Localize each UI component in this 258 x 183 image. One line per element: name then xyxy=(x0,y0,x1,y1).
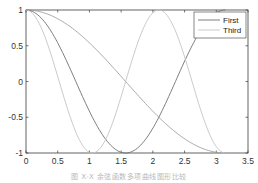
y-tick-label: 0.5 xyxy=(11,41,23,51)
x-tick-label: 3.5 xyxy=(242,156,254,166)
legend-label: First xyxy=(223,16,239,25)
figure-caption: 图 X-X 余弦函数多项曲线图形比较 xyxy=(0,171,258,181)
x-tick-label: 1.5 xyxy=(115,156,127,166)
x-tick-label: 0 xyxy=(24,156,29,166)
x-tick-label: 2 xyxy=(150,156,155,166)
x-tick-label: 2.5 xyxy=(179,156,191,166)
x-tick-label: 3 xyxy=(214,156,219,166)
y-tick-label: -0.5 xyxy=(8,112,23,122)
y-tick-label: 1 xyxy=(18,5,23,15)
legend-label: Third xyxy=(223,26,241,35)
line-chart: 00.511.522.533.5-1-0.500.51 FirstThird xyxy=(0,0,258,170)
x-tick-label: 0.5 xyxy=(52,156,64,166)
y-tick-label: -1 xyxy=(15,148,23,158)
x-tick-label: 1 xyxy=(87,156,92,166)
y-tick-label: 0 xyxy=(18,77,23,87)
legend: FirstThird xyxy=(194,12,246,38)
